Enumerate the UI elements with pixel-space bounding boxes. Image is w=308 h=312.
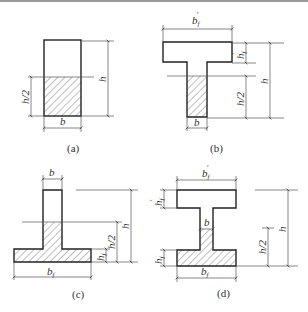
label-h: h bbox=[276, 226, 288, 232]
label-bf: bf bbox=[47, 265, 56, 279]
label-h-half: h/2 bbox=[19, 89, 31, 104]
diagram-canvas: h h/2 b (a) bf′ bbox=[0, 0, 308, 312]
label-bf: bf bbox=[201, 265, 210, 279]
label-h: h bbox=[119, 223, 131, 229]
label-b: b bbox=[60, 115, 66, 127]
label-hf-prime: hf′ bbox=[231, 51, 248, 60]
tension-zone-hatch bbox=[177, 229, 236, 266]
tension-zone-hatch bbox=[187, 76, 207, 117]
panel-d-i-section: bf′ hf′ hf b h/2 h bbox=[149, 164, 298, 300]
label-h-half: h/2 bbox=[234, 91, 246, 106]
caption-c: (c) bbox=[72, 288, 85, 301]
label-hf-prime: hf′ bbox=[149, 198, 166, 207]
label-b: b bbox=[204, 216, 210, 228]
label-b: b bbox=[194, 116, 200, 128]
label-h: h bbox=[258, 78, 270, 84]
label-hf: hf bbox=[94, 253, 108, 262]
cross-sections-figure: h h/2 b (a) bf′ bbox=[0, 0, 308, 312]
label-h-half: h/2 bbox=[256, 239, 268, 254]
panel-a-rectangle: h h/2 b (a) bbox=[19, 40, 114, 155]
label-b: b bbox=[49, 166, 55, 178]
label-h: h bbox=[96, 76, 108, 82]
tension-zone-hatch bbox=[44, 77, 81, 116]
panel-c-inverted-t-section: b hf h/2 h bf (c) bbox=[14, 166, 138, 301]
caption-b: (b) bbox=[210, 142, 223, 155]
tension-zone-hatch bbox=[14, 222, 91, 262]
label-bf-prime: bf′ bbox=[192, 11, 201, 28]
caption-a: (a) bbox=[67, 142, 80, 155]
label-h-half: h/2 bbox=[105, 234, 117, 249]
panel-b-t-section: bf′ hf′ h/2 h b (b) bbox=[163, 11, 284, 155]
label-hf: hf bbox=[152, 256, 166, 265]
label-bf-prime: bf′ bbox=[202, 164, 211, 181]
caption-d: (d) bbox=[217, 287, 230, 300]
